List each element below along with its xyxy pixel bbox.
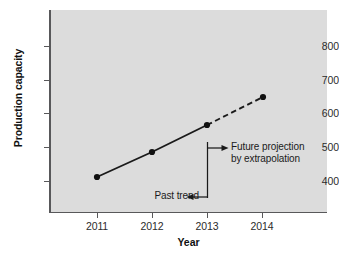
y-tick-label-400: 400 (305, 175, 339, 187)
x-tick-label-2013: 2013 (187, 220, 227, 232)
y-tick-mark-500 (44, 147, 50, 148)
y-tick-mark-700 (44, 80, 50, 81)
chart-figure: 800 700 600 500 400 2011 2012 2013 2014 … (0, 0, 339, 262)
y-axis-line (49, 10, 51, 213)
x-axis-title: Year (50, 236, 327, 248)
annotation-past-trend: Past trend (139, 190, 199, 202)
x-tick-label-2014: 2014 (242, 220, 282, 232)
y-tick-mark-400 (44, 181, 50, 182)
annotation-future-projection: Future projection by extrapolation (231, 141, 326, 164)
x-tick-mark-2014 (262, 212, 263, 218)
x-tick-mark-2013 (207, 212, 208, 218)
x-tick-mark-2012 (152, 212, 153, 218)
x-tick-label-2011: 2011 (77, 220, 117, 232)
y-tick-mark-600 (44, 113, 50, 114)
y-tick-label-600: 600 (305, 107, 339, 119)
x-tick-label-2012: 2012 (132, 220, 172, 232)
y-tick-mark-800 (44, 46, 50, 47)
y-tick-label-700: 700 (305, 74, 339, 86)
plot-area (50, 10, 327, 212)
x-tick-mark-2011 (97, 212, 98, 218)
x-axis-line (49, 212, 327, 214)
y-tick-label-800: 800 (305, 40, 339, 52)
y-axis-title: Production capacity (12, 28, 24, 168)
